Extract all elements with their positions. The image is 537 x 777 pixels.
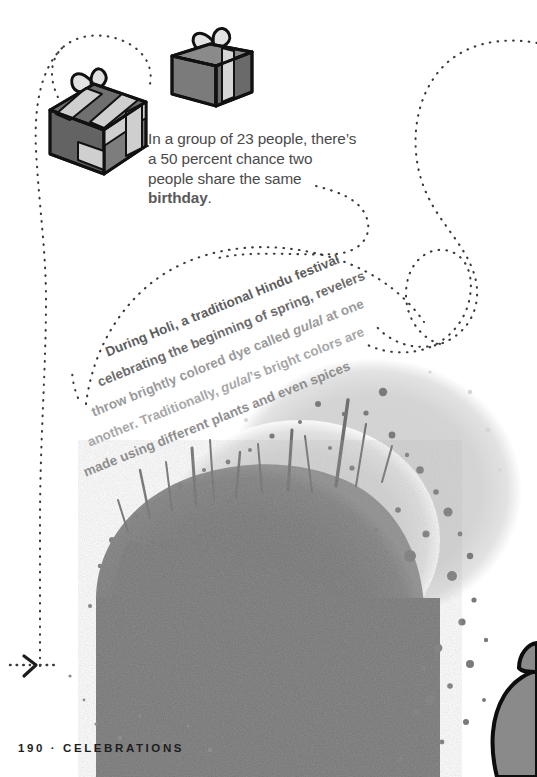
birthday-fact-text: In a group of 23 people, there’s a 50 pe…	[148, 129, 358, 208]
fact-text-before: In a group of 23 people, there’s a 50 pe…	[148, 130, 356, 187]
fact-keyword-birthday: birthday	[148, 189, 208, 206]
page-canvas: In a group of 23 people, there’s a 50 pe…	[0, 0, 537, 777]
gift-box-large-icon	[30, 50, 162, 182]
dotted-path-holi-lead	[72, 368, 78, 398]
holi-line-3: throw brightly colored dye called gulal …	[89, 296, 366, 420]
gift-box-small-icon	[160, 18, 264, 122]
page-footer: 190 · CELEBRATIONS	[18, 742, 184, 754]
holi-fact-text: During Holi, a traditional Hindu festiva…	[82, 255, 442, 485]
arrow-marker	[10, 656, 56, 676]
fact-text-after: .	[208, 189, 212, 206]
